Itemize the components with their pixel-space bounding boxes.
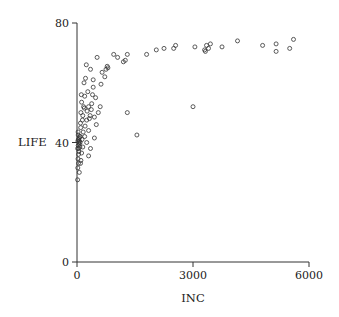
x-ticks: 030006000 <box>74 262 324 282</box>
data-point-marker <box>82 105 86 109</box>
data-point-marker <box>208 42 212 46</box>
data-point-marker <box>112 52 116 56</box>
data-points <box>76 37 296 181</box>
data-point-marker <box>79 93 83 97</box>
data-point-marker <box>95 55 99 59</box>
y-tick-label: 80 <box>55 17 69 30</box>
data-point-marker <box>91 85 95 89</box>
data-point-marker <box>79 126 83 130</box>
data-point-marker <box>236 39 240 43</box>
data-point-marker <box>87 129 91 133</box>
data-point-marker <box>191 105 195 109</box>
data-point-marker <box>99 82 103 86</box>
data-point-marker <box>86 90 90 94</box>
data-point-marker <box>85 141 89 145</box>
data-point-marker <box>76 178 80 182</box>
data-point-marker <box>77 170 81 174</box>
data-point-marker <box>83 135 87 139</box>
data-point-marker <box>92 115 96 119</box>
data-point-marker <box>193 45 197 49</box>
data-point-marker <box>84 76 88 80</box>
data-point-marker <box>79 111 83 115</box>
data-point-marker <box>162 46 166 50</box>
data-point-marker <box>80 100 84 104</box>
data-point-marker <box>145 52 149 56</box>
data-point-marker <box>274 42 278 46</box>
data-point-marker <box>92 136 96 140</box>
data-point-marker <box>154 48 158 52</box>
data-point-marker <box>87 105 91 109</box>
x-tick-label: 6000 <box>295 269 323 282</box>
x-axis-title: INC <box>181 291 205 305</box>
data-point-marker <box>292 37 296 41</box>
data-point-marker <box>135 133 139 137</box>
data-point-marker <box>82 81 86 85</box>
data-point-marker <box>91 78 95 82</box>
data-point-marker <box>116 55 120 59</box>
data-point-marker <box>103 75 107 79</box>
data-point-marker <box>125 52 129 56</box>
data-point-marker <box>81 145 85 149</box>
data-point-marker <box>94 123 98 127</box>
data-point-marker <box>125 111 129 115</box>
data-point-marker <box>83 124 87 128</box>
data-point-marker <box>89 147 93 151</box>
data-point-marker <box>76 166 80 170</box>
data-point-marker <box>79 121 83 125</box>
data-point-marker <box>261 43 265 47</box>
data-point-marker <box>288 46 292 50</box>
data-point-marker <box>100 70 104 74</box>
y-axis-title: LIFE <box>18 135 47 149</box>
data-point-marker <box>98 105 102 109</box>
data-point-marker <box>91 93 95 97</box>
y-tick-label: 40 <box>55 137 69 150</box>
y-ticks: 04080 <box>55 17 77 269</box>
data-point-marker <box>274 49 278 53</box>
data-point-marker <box>172 46 176 50</box>
data-point-marker <box>220 45 224 49</box>
x-tick-label: 3000 <box>179 269 207 282</box>
x-tick-label: 0 <box>74 269 81 282</box>
data-point-marker <box>205 43 209 47</box>
data-point-marker <box>89 67 93 71</box>
y-tick-label: 0 <box>62 256 69 269</box>
scatter-chart: 04080 030006000 LIFE INC <box>0 0 339 317</box>
data-point-marker <box>96 111 100 115</box>
data-point-marker <box>81 130 85 134</box>
data-point-marker <box>87 154 91 158</box>
data-point-marker <box>84 63 88 67</box>
